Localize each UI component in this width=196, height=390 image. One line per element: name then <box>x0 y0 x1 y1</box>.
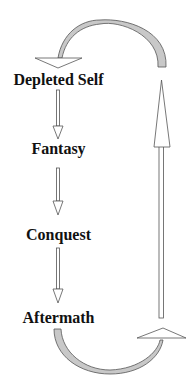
arrowhead-down-icon <box>35 58 82 68</box>
bottom-curved-arrow <box>54 328 186 374</box>
stage-fantasy: Fantasy <box>0 140 117 158</box>
down-arrow-2 <box>53 168 63 215</box>
down-arrow-3 <box>53 248 63 303</box>
down-arrow-1 <box>53 90 63 139</box>
up-arrow-tall <box>154 80 170 318</box>
stage-conquest: Conquest <box>0 226 117 244</box>
cycle-diagram <box>0 0 196 390</box>
top-curved-arrow <box>35 20 166 68</box>
arrowhead-up-icon <box>137 328 186 338</box>
stage-depleted-self: Depleted Self <box>0 71 117 89</box>
stage-aftermath: Aftermath <box>0 309 117 327</box>
